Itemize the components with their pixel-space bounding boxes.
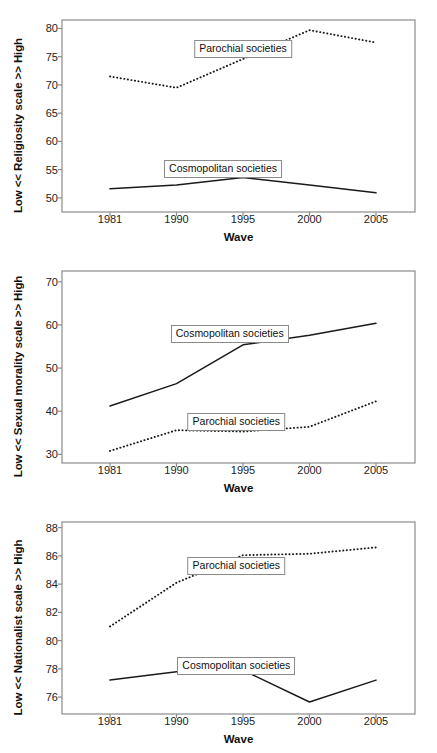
x-tick-label: 1981 [98, 464, 122, 476]
chart-panel-nationalist: Low << Nationalist scale >> High 7678808… [0, 502, 437, 753]
y-tick-label: 82 [32, 606, 58, 618]
x-tick-label: 2000 [297, 715, 321, 727]
y-tick-label: 60 [32, 135, 58, 147]
y-axis-label-wrap: Low << Religiosity scale >> High [8, 0, 28, 251]
x-tick-label: 2000 [297, 464, 321, 476]
y-tick-label: 84 [32, 578, 58, 590]
x-tick-label: 1995 [231, 213, 255, 225]
x-tick-label: 2005 [364, 213, 388, 225]
y-tick-label: 80 [32, 635, 58, 647]
y-tick-label: 65 [32, 107, 58, 119]
y-tick-label: 55 [32, 164, 58, 176]
series-callout-label: Parochial societies [194, 40, 292, 58]
y-tick-label: 50 [32, 362, 58, 374]
y-tick-label: 86 [32, 550, 58, 562]
series-callout-label: Cosmopolitan societies [164, 160, 282, 178]
plot-frame [62, 271, 415, 463]
series-callout-label: Cosmopolitan societies [177, 657, 295, 675]
y-axis-label-wrap: Low << Nationalist scale >> High [8, 502, 28, 753]
series-callout-label: Parochial societies [188, 557, 286, 575]
series-callout-label: Cosmopolitan societies [171, 325, 289, 343]
x-tick-label: 2005 [364, 715, 388, 727]
y-tick-label: 30 [32, 448, 58, 460]
y-tick-label: 70 [32, 79, 58, 91]
y-axis-label: Low << Religiosity scale >> High [8, 0, 28, 251]
x-tick-label: 1995 [231, 464, 255, 476]
y-tick-label: 50 [32, 192, 58, 204]
y-tick-label: 60 [32, 319, 58, 331]
x-tick-label: 1990 [164, 213, 188, 225]
y-tick-labels: 76788082848688 [30, 502, 58, 753]
y-axis-label: Low << Sexual morality scale >> High [8, 251, 28, 502]
x-tick-label: 1981 [98, 213, 122, 225]
x-axis-label: Wave [62, 733, 415, 745]
y-tick-label: 70 [32, 276, 58, 288]
y-tick-labels: 50556065707580 [30, 0, 58, 251]
figure-three-panel-line-charts: Low << Religiosity scale >> High 5055606… [0, 0, 437, 753]
y-tick-label: 40 [32, 405, 58, 417]
chart-panel-sexual-morality: Low << Sexual morality scale >> High 304… [0, 251, 437, 502]
y-tick-label: 78 [32, 663, 58, 675]
y-tick-labels: 3040506070 [30, 251, 58, 502]
x-tick-label: 2000 [297, 213, 321, 225]
y-tick-label: 76 [32, 691, 58, 703]
y-axis-label-wrap: Low << Sexual morality scale >> High [8, 251, 28, 502]
series-line-solid [110, 178, 376, 193]
y-axis-label: Low << Nationalist scale >> High [8, 502, 28, 753]
series-line-solid [110, 670, 376, 702]
series-line-dotted [110, 30, 376, 88]
x-axis-label: Wave [62, 482, 415, 494]
x-tick-label: 1990 [164, 715, 188, 727]
x-tick-label: 1995 [231, 715, 255, 727]
y-tick-label: 75 [32, 51, 58, 63]
x-tick-label: 2005 [364, 464, 388, 476]
chart-panel-religiosity: Low << Religiosity scale >> High 5055606… [0, 0, 437, 251]
series-callout-label: Parochial societies [188, 413, 286, 431]
x-axis-label: Wave [62, 231, 415, 243]
y-tick-label: 88 [32, 522, 58, 534]
x-tick-label: 1981 [98, 715, 122, 727]
x-tick-label: 1990 [164, 464, 188, 476]
y-tick-label: 80 [32, 22, 58, 34]
